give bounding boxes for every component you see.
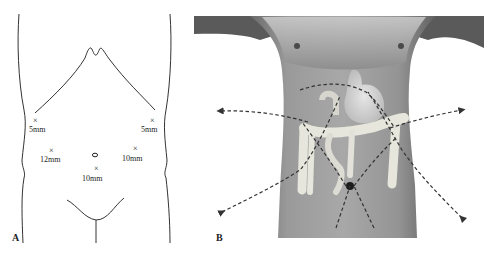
- port-cross-icon: ×: [49, 146, 54, 155]
- port-cross-icon: ×: [33, 116, 38, 125]
- panel-label-a: A: [12, 232, 20, 243]
- right-nipple: [398, 43, 404, 49]
- port-size-label: 12mm: [40, 155, 61, 164]
- right-flank-outline: [164, 14, 170, 243]
- abdomen-outline-drawing: × 5mm × 5mm × 12mm × 10mm × 10mm A: [0, 0, 190, 257]
- panel-a-line-drawing: × 5mm × 5mm × 12mm × 10mm × 10mm A: [0, 0, 190, 257]
- port-cross-icon: ×: [94, 164, 99, 173]
- port-right-upper: × 5mm: [141, 116, 158, 134]
- port-cross-icon: ×: [150, 116, 155, 125]
- port-size-label: 10mm: [122, 154, 143, 163]
- port-left-mid: × 12mm: [40, 146, 61, 164]
- port-left-upper: × 5mm: [29, 116, 46, 134]
- torso-illustration: B: [190, 0, 493, 257]
- ascending-colon: [302, 128, 304, 190]
- port-right-mid: × 10mm: [122, 144, 143, 163]
- cecum-appendix: [310, 132, 312, 192]
- umbilicus-marker: [92, 153, 97, 157]
- sigmoid-colon: [350, 132, 352, 175]
- costal-margin-outline: [35, 48, 155, 113]
- left-nipple: [294, 43, 300, 49]
- port-size-label: 5mm: [141, 125, 158, 134]
- pelvic-outline: [67, 198, 124, 220]
- left-flank-outline: [18, 14, 25, 243]
- port-cross-icon: ×: [133, 144, 138, 153]
- port-size-label: 5mm: [29, 125, 46, 134]
- panel-label-b: B: [216, 232, 223, 243]
- port-size-label: 10mm: [82, 174, 103, 183]
- port-umbilical-infra: × 10mm: [82, 164, 103, 183]
- panel-b-torso-illustration: B: [190, 0, 493, 257]
